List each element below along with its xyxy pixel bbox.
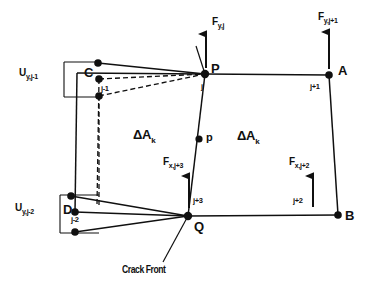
- edge-b-to-q: [188, 215, 338, 216]
- force-label-fy-j: Fy,j: [212, 17, 224, 29]
- force-label-fx-j3: Fx,j+3: [163, 157, 183, 169]
- dot-C-upper: [94, 59, 102, 67]
- node-label-j-plus-3: j+3: [193, 197, 202, 205]
- face-dashed-upper: [99, 74, 205, 79]
- force-sub-fy-j: y,j: [218, 22, 224, 29]
- force-label-fy-j1: Fy,j+1: [318, 12, 338, 24]
- force-vectors: [189, 32, 329, 208]
- element-outline: [75, 73, 338, 216]
- edge-a-to-b: [329, 75, 338, 215]
- disp-sub-uy-j2: y,j-2: [22, 208, 34, 215]
- disp-base-uy-j2: U: [15, 202, 22, 213]
- dot-D-lower: [71, 228, 79, 236]
- edge-p-to-q: [188, 74, 205, 216]
- displacement-label-uy-j2: Uy,j-2: [15, 203, 34, 215]
- force-sub-fx-j3: x,j+3: [169, 162, 183, 169]
- dot-C-lower: [95, 92, 103, 100]
- force-sub-fx-j2: x,j+2: [295, 162, 309, 169]
- dot-B: [334, 211, 342, 219]
- node-label-j-plus-2: j+2: [293, 197, 302, 205]
- edge-d-to-c: [75, 73, 77, 212]
- area-sub-right: k: [255, 137, 259, 146]
- dot-A: [325, 71, 333, 79]
- node-label-j-minus-1: j-1: [101, 85, 109, 93]
- crack-front-label: Crack Front: [122, 265, 166, 275]
- edge-c-to-p: [77, 73, 205, 74]
- disp-sub-uy-j1: y,j-1: [26, 73, 38, 80]
- crack-front-top-tick: [196, 46, 205, 74]
- vcct-diagram: [0, 0, 377, 307]
- point-label-A: A: [338, 64, 347, 77]
- crack-front-leader: [163, 216, 188, 262]
- point-label-B: B: [345, 209, 354, 222]
- face-lower-lower: [75, 216, 188, 232]
- node-label-j-minus-2: j-2: [71, 216, 79, 224]
- dot-Q: [184, 212, 192, 220]
- area-sub-left: k: [151, 136, 155, 145]
- point-label-C: C: [84, 66, 93, 79]
- point-label-Q: Q: [194, 220, 204, 233]
- force-sub-fy-j1: y,j+1: [324, 17, 338, 24]
- point-label-P: P: [211, 62, 219, 75]
- dot-P: [201, 70, 209, 78]
- displacement-label-uy-j1: Uy,j-1: [19, 68, 38, 80]
- node-label-j: j: [201, 83, 203, 91]
- edge-p-to-a: [205, 74, 329, 75]
- dot-p-mid: [195, 135, 202, 142]
- upper-crack-face: [98, 63, 205, 74]
- force-label-fx-j2: Fx,j+2: [289, 157, 309, 169]
- area-label-left: ΔAk: [133, 128, 155, 145]
- disp-base-uy-j1: U: [19, 67, 26, 78]
- dot-D-upper: [67, 192, 75, 200]
- area-label-right: ΔAk: [237, 129, 259, 146]
- area-base-right: ΔA: [237, 128, 255, 143]
- point-label-p-mid: p: [206, 132, 212, 143]
- dot-C: [95, 75, 103, 83]
- face-dashed-lower: [99, 74, 205, 96]
- face-upper-solid: [98, 63, 205, 74]
- area-base-left: ΔA: [133, 127, 151, 142]
- node-label-j-plus-1: j+1: [310, 83, 319, 91]
